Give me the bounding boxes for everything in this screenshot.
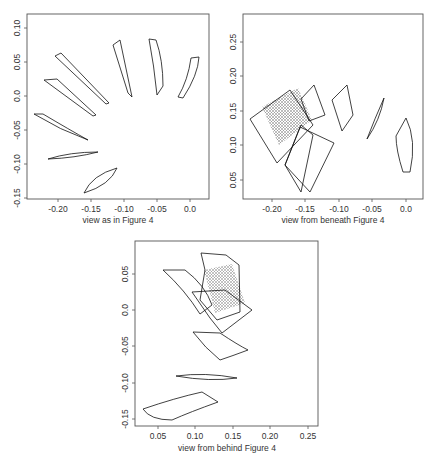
surface-mesh: [143, 392, 218, 420]
y-axis: -0.15 -0.10 -0.05 0.0 0.05 0.10: [12, 19, 27, 207]
y-tick-label: 0.0: [12, 90, 22, 102]
y-tick-label: -0.05: [12, 120, 22, 140]
x-tick-label: -0.05: [147, 204, 167, 214]
x-tick-label: -0.10: [329, 204, 349, 214]
x-tick-label: 0.25: [300, 431, 317, 441]
surfaces: [143, 253, 252, 420]
surface-mesh: [285, 127, 334, 192]
x-tick-label: 0.0: [400, 204, 412, 214]
y-tick-label: 0.05: [120, 265, 130, 282]
y-tick-label: 0.05: [228, 171, 238, 188]
x-tick-label: 0.0: [184, 204, 196, 214]
surfaces: [34, 39, 199, 193]
panel-view-from-behind-figure-4: 0.05 0.10 0.15 0.20 0.25 view from behin…: [120, 241, 318, 453]
y-tick-label: 0.10: [12, 19, 22, 36]
y-tick-label: -0.10: [12, 154, 22, 174]
x-tick-label: -0.20: [262, 204, 282, 214]
y-tick-label: -0.15: [12, 188, 22, 208]
panel-view-from-beneath-figure-4: -0.20 -0.15 -0.10 -0.05 0.0 view from be…: [228, 14, 423, 225]
surface-mesh: [48, 152, 98, 159]
surface-mesh: [44, 79, 96, 116]
x-tick-label: 0.15: [225, 431, 242, 441]
y-tick-label: -0.15: [120, 409, 130, 429]
x-tick-label: 0.20: [262, 431, 279, 441]
surface-mesh: [396, 118, 413, 172]
surface-mesh: [84, 168, 117, 193]
x-tick-label: -0.15: [81, 204, 101, 214]
surface-mesh: [113, 40, 132, 97]
y-tick-label: 0.20: [228, 67, 238, 84]
x-tick-label: -0.05: [362, 204, 382, 214]
surface-mesh: [367, 98, 384, 139]
surfaces: [250, 85, 413, 192]
surface-mesh: [149, 39, 163, 95]
x-axis: -0.20 -0.15 -0.10 -0.05 0.0: [48, 199, 196, 214]
panel-view-as-figure-4: -0.20 -0.15 -0.10 -0.05 0.0 view as in F…: [12, 14, 209, 225]
x-axis-label: view from beneath Figure 4: [282, 215, 385, 225]
x-tick-label: -0.20: [48, 204, 68, 214]
y-tick-label: -0.10: [120, 373, 130, 393]
y-tick-label: 0.10: [228, 136, 238, 153]
y-tick-label: 0.15: [228, 102, 238, 119]
x-axis-label: view from behind Figure 4: [178, 443, 276, 453]
y-axis: -0.15 -0.10 -0.05 0.0 0.05: [120, 265, 135, 428]
y-tick-label: 0.0: [120, 304, 130, 316]
surface-mesh: [332, 85, 353, 131]
surface-mesh: [193, 332, 248, 360]
x-tick-label: 0.10: [187, 431, 204, 441]
figure: -0.20 -0.15 -0.10 -0.05 0.0 view as in F…: [0, 0, 434, 467]
surface-mesh: [176, 374, 237, 379]
surface-mesh-overlap: [262, 88, 312, 145]
x-tick-label: -0.15: [295, 204, 315, 214]
surface-mesh: [34, 114, 88, 140]
x-tick-label: -0.10: [114, 204, 134, 214]
x-axis-label: view as in Figure 4: [83, 215, 154, 225]
x-axis: 0.05 0.10 0.15 0.20 0.25: [150, 426, 317, 441]
surface-mesh: [55, 53, 109, 104]
surface-mesh: [163, 270, 212, 314]
y-tick-label: -0.05: [120, 336, 130, 356]
x-tick-label: 0.05: [150, 431, 167, 441]
y-tick-label: 0.25: [228, 33, 238, 50]
x-axis: -0.20 -0.15 -0.10 -0.05 0.0: [262, 199, 412, 214]
surface-mesh: [178, 57, 199, 98]
y-axis: 0.05 0.10 0.15 0.20 0.25: [228, 33, 243, 188]
y-tick-label: 0.05: [12, 53, 22, 70]
